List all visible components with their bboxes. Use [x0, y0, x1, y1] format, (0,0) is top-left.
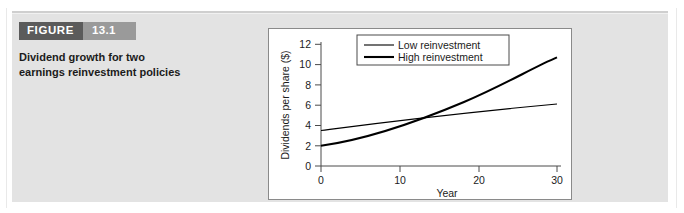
y-tick-label-10: 10	[299, 58, 311, 70]
x-tick-label-20: 20	[473, 174, 485, 186]
y-axis-ticks	[315, 44, 321, 166]
figure-root: FIGURE 13.1 Dividend growth for two earn…	[0, 0, 684, 213]
page-edge-right-rule	[676, 8, 677, 208]
chart-legend: Low reinvestment High reinvestment	[357, 35, 509, 65]
x-tick-label-10: 10	[394, 174, 406, 186]
x-axis-ticks	[321, 166, 557, 172]
y-tick-label-12: 12	[299, 38, 311, 50]
figure-badge: FIGURE 13.1	[19, 22, 136, 40]
x-axis-tick-labels: 0 10 20 30	[318, 174, 563, 186]
figure-badge-word: FIGURE	[19, 22, 83, 40]
series-line-low-reinvestment	[321, 104, 557, 131]
y-tick-label-8: 8	[305, 79, 311, 91]
legend-label-high-reinvestment: High reinvestment	[398, 51, 483, 63]
y-tick-label-4: 4	[305, 119, 311, 131]
page-edge-left-rule	[6, 8, 7, 208]
dividend-growth-line-chart: 12 10 8 6 4 2 0 0 10 20 30	[269, 29, 571, 199]
figure-badge-number: 13.1	[83, 22, 136, 40]
y-tick-label-0: 0	[305, 160, 311, 172]
y-axis-tick-labels: 12 10 8 6 4 2 0	[299, 38, 311, 172]
x-tick-label-30: 30	[551, 174, 563, 186]
y-tick-label-2: 2	[305, 140, 311, 152]
figure-caption: Dividend growth for two earnings reinves…	[19, 50, 184, 80]
series-line-high-reinvestment	[321, 57, 557, 145]
x-tick-label-0: 0	[318, 174, 324, 186]
chart-container: 12 10 8 6 4 2 0 0 10 20 30	[268, 28, 572, 200]
y-tick-label-6: 6	[305, 99, 311, 111]
legend-label-low-reinvestment: Low reinvestment	[398, 39, 480, 51]
panel-top-highlight	[12, 13, 668, 14]
y-axis-title: Dividends per share ($)	[279, 50, 291, 159]
x-axis-title: Year	[436, 187, 458, 199]
